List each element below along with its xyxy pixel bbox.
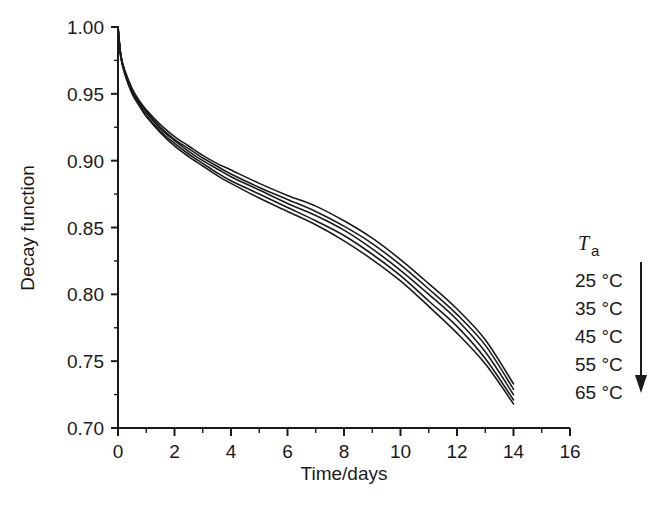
decay-function-chart: 0.700.750.800.850.900.951.00 02468101214… xyxy=(0,0,661,522)
legend-heading-subscript: a xyxy=(591,242,600,259)
x-tick-label: 0 xyxy=(113,441,124,462)
legend-entry-label: 55 °C xyxy=(575,354,623,375)
y-tick-label: 0.80 xyxy=(67,284,104,305)
legend-entry-label: 45 °C xyxy=(575,326,623,347)
y-tick-label: 0.70 xyxy=(67,418,104,439)
legend-heading-symbol: T xyxy=(578,232,591,254)
y-tick-label: 0.75 xyxy=(67,351,104,372)
legend-entries: 25 °C35 °C45 °C55 °C65 °C xyxy=(575,270,623,403)
y-tick-label: 1.00 xyxy=(67,17,104,38)
x-tick-label: 4 xyxy=(226,441,237,462)
x-tick-label: 8 xyxy=(339,441,350,462)
legend-entry-label: 35 °C xyxy=(575,298,623,319)
y-tick-label: 0.90 xyxy=(67,151,104,172)
x-tick-label: 16 xyxy=(559,441,580,462)
y-tick-label: 0.85 xyxy=(67,218,104,239)
x-tick-label: 14 xyxy=(503,441,525,462)
chart-svg: 0.700.750.800.850.900.951.00 02468101214… xyxy=(0,0,661,522)
legend-entry-label: 65 °C xyxy=(575,382,623,403)
x-tick-label: 12 xyxy=(446,441,467,462)
x-tick-label: 2 xyxy=(169,441,180,462)
y-tick-label: 0.95 xyxy=(67,84,104,105)
x-axis-title: Time/days xyxy=(301,463,388,484)
y-axis-title: Decay function xyxy=(17,165,38,291)
x-tick-label: 6 xyxy=(282,441,293,462)
x-tick-label: 10 xyxy=(390,441,411,462)
legend-entry-label: 25 °C xyxy=(575,270,623,291)
